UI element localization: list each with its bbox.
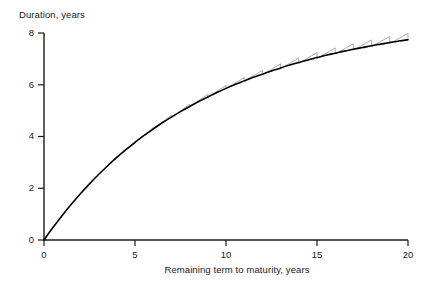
x-tick-label-20: 20 — [396, 249, 420, 260]
x-axis-ticks — [44, 240, 408, 246]
x-tick-label-5: 5 — [123, 249, 147, 260]
y-tick-label-0: 0 — [14, 234, 34, 245]
duration-curve-series — [44, 40, 408, 240]
y-tick-label-2: 2 — [14, 182, 34, 193]
x-axis-title: Remaining term to maturity, years — [0, 264, 430, 275]
y-tick-label-6: 6 — [14, 79, 34, 90]
chart-container: Duration, years 8 6 4 2 0 0 5 10 15 20 — [0, 0, 430, 285]
y-axis-ticks — [38, 33, 44, 240]
x-tick-label-0: 0 — [32, 249, 56, 260]
axis-lines — [44, 33, 408, 240]
y-tick-label-4: 4 — [14, 130, 34, 141]
y-tick-label-8: 8 — [14, 27, 34, 38]
duration-sawtooth-series — [99, 33, 408, 174]
x-tick-label-15: 15 — [305, 249, 329, 260]
chart-plot-area — [0, 0, 430, 285]
x-tick-label-10: 10 — [214, 249, 238, 260]
